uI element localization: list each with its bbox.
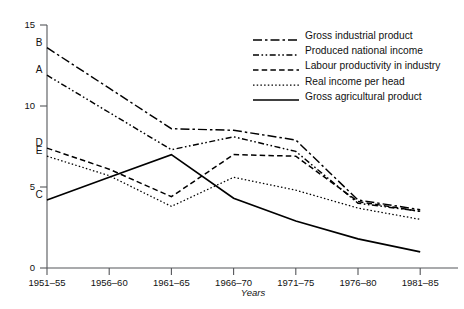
legend-item: Produced national income — [253, 43, 461, 58]
y-tick-label: 0 — [30, 262, 35, 273]
x-tick-label: 1961–65 — [153, 277, 190, 288]
x-axis-ticks: 1951–551956–601961–651966–701971–751976–… — [29, 268, 439, 288]
y-tick-label: 15 — [24, 19, 35, 30]
chart-legend: Gross industrial productProduced nationa… — [253, 28, 461, 104]
x-tick-label: 1951–55 — [29, 277, 66, 288]
legend-label: Real income per head — [305, 76, 405, 87]
legend-item: Real income per head — [253, 74, 461, 89]
series-line-real-income-per-head — [47, 156, 420, 219]
legend-item: Gross agricultural product — [253, 89, 461, 104]
x-axis-title: Years — [241, 287, 266, 298]
legend-label: Gross industrial product — [305, 30, 413, 41]
x-tick-label: 1981–85 — [402, 277, 439, 288]
legend-label: Gross agricultural product — [305, 91, 422, 102]
legend-item: Labour productivity in industry — [253, 58, 461, 73]
y-tick-label: 5 — [30, 181, 35, 192]
legend-swatch-icon — [253, 31, 299, 41]
series-start-label-gross-industrial-product: B — [36, 37, 43, 48]
legend-label: Labour productivity in industry — [305, 60, 440, 71]
series-line-gross-agricultural-product — [47, 155, 420, 252]
chart-container: 051015 1951–551956–601961–651966–701971–… — [0, 0, 464, 309]
y-tick-label: 10 — [24, 100, 35, 111]
x-tick-label: 1976–80 — [340, 277, 377, 288]
legend-swatch-icon — [253, 91, 299, 101]
series-start-label-gross-agricultural-product: C — [35, 189, 42, 200]
legend-swatch-icon — [253, 61, 299, 71]
series-start-label-real-income-per-head: E — [36, 145, 43, 156]
series-start-label-produced-national-income: A — [36, 64, 43, 75]
legend-swatch-icon — [253, 76, 299, 86]
legend-swatch-icon — [253, 46, 299, 56]
x-tick-label: 1956–60 — [91, 277, 128, 288]
legend-label: Produced national income — [305, 45, 423, 56]
x-tick-label: 1971–75 — [277, 277, 314, 288]
legend-item: Gross industrial product — [253, 28, 461, 43]
series-start-labels: BADEC — [35, 37, 42, 200]
